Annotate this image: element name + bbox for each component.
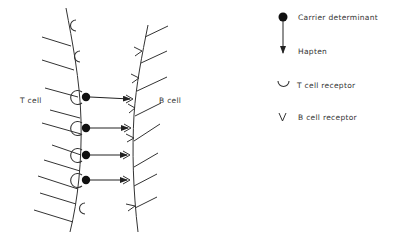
carrier-determinant-icon — [82, 176, 90, 184]
carrier-determinant-dot-icon — [279, 13, 288, 22]
t-cell-label: T cell — [20, 96, 42, 105]
t-cell-receptor-cup-icon — [278, 81, 289, 87]
t-cell-receptor-icon — [71, 20, 77, 31]
legend-icons — [278, 13, 289, 122]
carrier-determinant-icon — [82, 124, 90, 132]
t-cell-receptor-icon — [71, 174, 82, 188]
b-cell-receptor-v-icon — [279, 113, 286, 121]
t-cell-membrane — [34, 8, 81, 232]
b-cell-receptor-icon — [126, 204, 135, 211]
carrier-determinant-icon — [82, 93, 90, 101]
legend-label-hapten: Hapten — [298, 47, 327, 56]
bridge-3 — [71, 149, 130, 163]
b-cell-membrane — [133, 25, 168, 232]
legend-label-carrier-determinant: Carrier determinant — [298, 13, 378, 22]
t-cell-receptor-icon — [80, 203, 86, 214]
legend-label-b-cell-receptor: B cell receptor — [298, 113, 357, 122]
b-cell-label: B cell — [159, 96, 181, 105]
hapten-arrow-icon — [90, 97, 130, 99]
b-cell-receptor-icon — [134, 47, 142, 56]
carrier-determinant-icon — [82, 151, 90, 159]
legend-label-t-cell-receptor: T cell receptor — [297, 81, 355, 90]
